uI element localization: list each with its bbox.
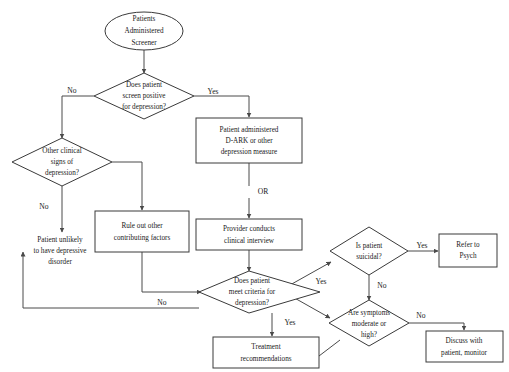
suicidal-line-2: suicidal?	[356, 253, 382, 261]
node-suicidal[interactable]: Is patient suicidal?	[330, 227, 408, 275]
label-severity-no: No	[416, 311, 425, 320]
label-screen-yes: Yes	[207, 87, 218, 96]
node-other-signs[interactable]: Other clinical signs of depression?	[12, 138, 112, 186]
clinical-interview-box	[196, 219, 302, 250]
node-patient-unlikely[interactable]: Patient unlikely to have depressive diso…	[33, 236, 86, 266]
connector-severity-to-treatment	[319, 340, 340, 356]
start-line-1: Patients	[133, 15, 156, 23]
other-signs-line-1: Other clinical	[42, 147, 81, 155]
rule-out-line-2: contributing factors	[114, 234, 171, 242]
flowchart-canvas: Patients Administered Screener Does pati…	[0, 0, 509, 372]
label-meet-yes-down: Yes	[284, 318, 295, 327]
other-signs-line-2: signs of	[51, 158, 74, 166]
node-rule-out[interactable]: Rule out other contributing factors	[95, 211, 189, 252]
discuss-monitor-line-1: Discuss with	[446, 337, 483, 345]
patient-unlikely-line-2: to have depressive	[33, 247, 86, 255]
node-start[interactable]: Patients Administered Screener	[105, 12, 183, 50]
start-line-3: Screener	[131, 39, 157, 47]
connector-screen-no	[62, 96, 94, 138]
start-line-2: Administered	[124, 27, 164, 35]
label-suicidal-no: No	[377, 281, 386, 290]
node-dark-measure[interactable]: Patient administered D-ARK or other depr…	[196, 118, 302, 163]
rule-out-box	[95, 211, 189, 252]
screen-positive-line-2: screen positive	[123, 92, 166, 100]
other-signs-line-3: depression?	[45, 169, 79, 177]
label-signs-no: No	[39, 202, 48, 211]
treatment-line-2: recommendations	[240, 355, 291, 363]
meet-criteria-line-3: depression?	[235, 299, 269, 307]
meet-criteria-line-1: Does patient	[234, 277, 270, 285]
refer-psych-line-2: Psych	[459, 252, 477, 260]
node-screen-positive[interactable]: Does patient screen positive for depress…	[94, 73, 194, 119]
clinical-interview-line-1: Provider conducts	[223, 225, 275, 233]
refer-psych-line-1: Refer to	[456, 241, 480, 249]
or-label: OR	[258, 187, 269, 196]
flowchart-svg: Patients Administered Screener Does pati…	[0, 0, 509, 372]
meet-criteria-line-2: meet criteria for	[229, 288, 276, 296]
connector-severity-no	[409, 323, 464, 330]
rule-out-line-1: Rule out other	[121, 222, 163, 230]
discuss-monitor-box	[426, 331, 503, 362]
screen-positive-line-3: for depression?	[122, 103, 166, 111]
node-treatment[interactable]: Treatment recommendations	[213, 337, 319, 368]
connector-ruleout-to-meet	[142, 252, 201, 292]
treatment-line-1: Treatment	[251, 343, 280, 351]
node-refer-psych[interactable]: Refer to Psych	[439, 234, 497, 267]
patient-unlikely-line-3: disorder	[48, 258, 72, 266]
refer-psych-box	[439, 234, 497, 267]
node-discuss-monitor[interactable]: Discuss with patient, monitor	[426, 331, 503, 362]
suicidal-diamond	[330, 227, 408, 275]
treatment-box	[213, 337, 319, 368]
screen-positive-line-1: Does patient	[126, 81, 162, 89]
node-clinical-interview[interactable]: Provider conducts clinical interview	[196, 219, 302, 250]
suicidal-line-1: Is patient	[356, 242, 383, 250]
symptom-severity-line-2: moderate or	[352, 320, 387, 328]
label-suicidal-yes: Yes	[416, 241, 427, 250]
label-meet-no: No	[157, 298, 166, 307]
node-meet-criteria[interactable]: Does patient meet criteria for depressio…	[199, 271, 320, 313]
clinical-interview-line-2: clinical interview	[224, 237, 275, 245]
symptom-severity-line-1: Are symptoms	[348, 309, 390, 317]
connector-signs-yes	[112, 162, 142, 210]
dark-measure-line-2: D-ARK or other	[225, 137, 273, 145]
discuss-monitor-line-2: patient, monitor	[441, 349, 488, 357]
label-meet-yes-up: Yes	[315, 277, 326, 286]
connector-screen-yes	[194, 96, 249, 117]
dark-measure-line-3: depression measure	[221, 148, 277, 156]
symptom-severity-line-3: high?	[361, 331, 377, 339]
label-screen-no: No	[67, 86, 76, 95]
patient-unlikely-line-1: Patient unlikely	[37, 236, 83, 244]
node-symptom-severity[interactable]: Are symptoms moderate or high?	[329, 300, 409, 346]
dark-measure-line-1: Patient administered	[220, 126, 279, 134]
